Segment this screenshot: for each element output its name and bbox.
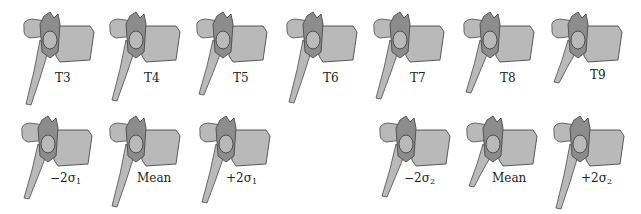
top-row-label: T5 <box>233 71 249 85</box>
top-row-label: T6 <box>323 71 339 85</box>
top-row-label: T4 <box>144 71 160 85</box>
vertebra-icon <box>18 116 98 211</box>
top-row-label: T3 <box>55 71 71 85</box>
bottom-row-label: +2σ1 <box>226 171 257 186</box>
top-row-label: T8 <box>500 71 516 85</box>
vertebra-icon <box>460 12 540 107</box>
vertebra-icon <box>106 12 186 107</box>
bottom-row-label: +2σ2 <box>581 171 612 186</box>
vertebra-icon <box>376 116 456 211</box>
vertebra-icon <box>196 116 276 211</box>
top-row-label: T9 <box>590 68 606 82</box>
vertebra-icon <box>106 116 186 211</box>
bottom-row-label: Mean <box>492 171 526 185</box>
top-row-label: T7 <box>410 71 426 85</box>
vertebra-icon <box>283 12 363 107</box>
bottom-row-label: −2σ1 <box>50 171 81 186</box>
vertebra-icon <box>550 116 630 211</box>
vertebra-icon <box>193 12 273 107</box>
vertebra-icon <box>20 12 100 107</box>
bottom-row-label: Mean <box>137 171 171 185</box>
bottom-row-label: −2σ2 <box>404 171 435 186</box>
vertebra-icon <box>463 116 543 211</box>
vertebra-icon <box>548 12 628 107</box>
vertebra-icon <box>370 12 450 107</box>
